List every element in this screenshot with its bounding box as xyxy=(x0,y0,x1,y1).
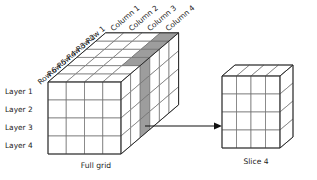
slice-block xyxy=(222,65,293,148)
layer-labels-group: Layer 1 Layer 2 Layer 3 Layer 4 xyxy=(5,87,33,150)
layer-label-1: Layer 1 xyxy=(5,87,33,96)
column-labels-group: Column 1 Column 2 Column 3 Column 4 xyxy=(109,3,197,33)
full-grid-block xyxy=(48,33,179,154)
diagram-canvas: Row 1 Row 2 Row 3 Row 4 Row 5 Row 6 Colu… xyxy=(0,0,317,180)
cube-slice-diagram: Row 1 Row 2 Row 3 Row 4 Row 5 Row 6 Colu… xyxy=(0,0,317,180)
slice-front-face xyxy=(222,76,280,148)
slice-right-face xyxy=(280,65,293,148)
slice-caption: Slice 4 xyxy=(243,157,268,166)
layer-label-4: Layer 4 xyxy=(5,141,33,150)
layer-label-3: Layer 3 xyxy=(5,123,33,132)
full-grid-caption: Full grid xyxy=(81,161,111,170)
layer-label-2: Layer 2 xyxy=(5,105,33,114)
full-grid-front-face xyxy=(48,82,121,154)
